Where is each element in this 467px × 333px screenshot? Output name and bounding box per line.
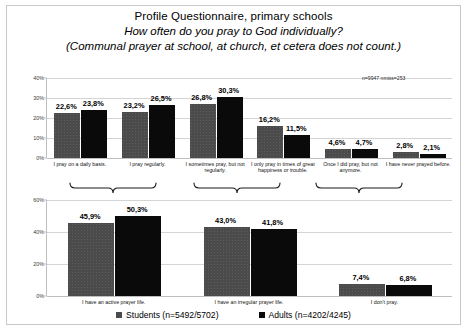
x-axis-category-label: I only pray in times of great happiness … [250,161,316,174]
bar-students[interactable] [325,149,351,158]
bar-value-label: 2,1% [423,143,440,152]
bar-value-label: 23,2% [124,101,145,110]
bar-adults[interactable] [352,149,378,158]
bar-value-label: 4,7% [356,138,373,147]
title-line-2: How often do you pray to God individuall… [0,24,467,39]
x-axis-category-label: I have an active prayer life. [47,299,180,305]
bar-students[interactable] [68,223,114,296]
bar-value-label: 43,0% [215,216,236,225]
grouping-braces [46,181,452,197]
bar-adults[interactable] [149,105,175,158]
gridline [47,158,452,159]
title-line-1: Profile Questionnaire, primary schools [0,9,467,24]
bar-value-label: 26,8% [191,93,212,102]
chart-detailed-frequency: 0%10%20%30%40% [46,78,452,158]
bar-adults[interactable] [251,229,297,296]
slide-root: Profile Questionnaire, primary schools H… [0,0,467,333]
gridline [47,138,452,139]
x-axis-category-label: I pray regularly. [115,161,181,167]
gridline [47,200,452,201]
y-axis-tick-mark [44,296,47,297]
x-axis-category-label: I sometimes pray, but not regularly. [182,161,248,174]
legend-label-students: Students (n=5492/5702) [126,310,218,320]
legend-item-adults[interactable]: Adults (n=4202/4245) [259,310,351,320]
title-line-3: (Communal prayer at school, at church, e… [0,39,467,54]
gridline [47,296,452,297]
legend-swatch-adults-icon [259,312,265,318]
x-axis-category-label: Once I did pray, but not anymore. [318,161,384,174]
y-axis-tick-mark [44,78,47,79]
bar-value-label: 4,6% [329,138,346,147]
x-axis-category-label: I pray on a daily basis. [47,161,113,167]
bar-value-label: 2,8% [396,141,413,150]
bar-value-label: 11,5% [286,124,307,133]
bar-students[interactable] [54,113,80,158]
gridline [47,98,452,99]
legend-item-students[interactable]: Students (n=5492/5702) [116,310,218,320]
bar-adults[interactable] [420,154,446,158]
x-axis-category-label: I have an irregular prayer life. [182,299,315,305]
y-axis-tick-mark [44,118,47,119]
chart-legend: Students (n=5492/5702) Adults (n=4202/42… [0,310,467,320]
bar-students[interactable] [204,227,250,296]
bar-value-label: 50,3% [127,205,148,214]
bar-students[interactable] [190,104,216,158]
bar-students[interactable] [122,112,148,158]
bar-adults[interactable] [115,216,161,296]
plot-area-1: 0%10%20%30%40% [46,78,452,158]
bar-students[interactable] [339,284,385,296]
y-axis-tick-mark [44,264,47,265]
bar-value-label: 7,4% [352,273,369,282]
legend-label-adults: Adults (n=4202/4245) [269,310,351,320]
gridline [47,118,452,119]
bar-students[interactable] [257,126,283,158]
y-axis-tick-mark [44,200,47,201]
bar-value-label: 22,6% [56,102,77,111]
bar-students[interactable] [393,152,419,158]
legend-swatch-students-icon [116,312,122,318]
bar-value-label: 30,3% [218,86,239,95]
chart-summary-prayer-life: 0%20%40%60% [46,200,452,296]
nmiss-annotation: n=9947 nmiss=253 [362,75,405,81]
bar-value-label: 41,8% [262,218,283,227]
y-axis-tick-mark [44,232,47,233]
bar-value-label: 23,8% [83,99,104,108]
x-axis-category-label: I don't pray. [318,299,451,305]
brace-group-icon [46,181,452,197]
bar-value-label: 45,9% [80,212,101,221]
bar-adults[interactable] [81,110,107,158]
x-axis-category-label: I have never prayed before. [385,161,451,167]
bar-value-label: 26,5% [151,94,172,103]
bar-adults[interactable] [284,135,310,158]
plot-area-2: 0%20%40%60% [46,200,452,296]
y-axis-tick-mark [44,98,47,99]
bar-value-label: 16,2% [259,115,280,124]
page-title: Profile Questionnaire, primary schools H… [0,9,467,54]
bar-adults[interactable] [217,97,243,158]
bar-value-label: 6,8% [399,274,416,283]
bar-adults[interactable] [386,285,432,296]
y-axis-tick-mark [44,158,47,159]
y-axis-tick-mark [44,138,47,139]
